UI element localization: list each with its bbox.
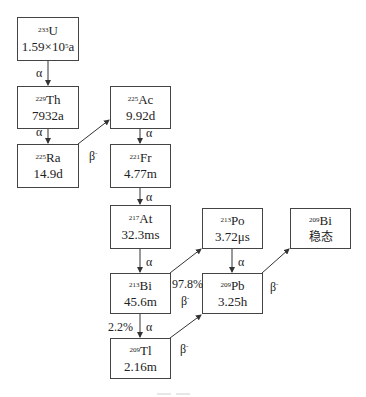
label-alpha-fr-at: α [146, 191, 152, 203]
nuclide-tl209: 209Tl 2.16m [110, 338, 171, 379]
nuclide-u233: 233U 1.59×105a [17, 17, 79, 61]
nuclide-th229: 229Th 7932a [17, 86, 79, 129]
label-alpha-po-pb: α [238, 256, 244, 268]
label-alpha-bi-tl: α [146, 321, 152, 333]
label-beta-tl-pb: β- [180, 340, 188, 355]
nuclide-bi209: 209Bi 稳态 [290, 208, 351, 249]
label-alpha-at-bi: α [146, 256, 152, 268]
label-alpha-ac-fr: α [146, 127, 152, 139]
nuclide-fr221: 221Fr 4.77m [110, 144, 171, 188]
caption-fragment [157, 393, 171, 395]
nuclide-ra225: 225Ra 14.9d [17, 144, 79, 188]
label-alpha-u-th: α [36, 67, 42, 79]
label-beta-bi-po: β- [181, 292, 189, 307]
nuclide-ac225: 225Ac 9.92d [110, 86, 171, 129]
nuclide-at217: 217At 32.3ms [110, 205, 171, 249]
label-beta-pb-bi: β- [270, 278, 278, 293]
label-branch-2-2: 2.2% [108, 321, 133, 333]
label-beta-ra-ac: β- [89, 147, 97, 162]
nuclide-po213: 213Po 3.72μs [202, 208, 263, 249]
nuclide-bi213: 213Bi 45.6m [110, 273, 171, 314]
label-alpha-th-ra: α [36, 126, 42, 138]
nuclide-pb209: 209Pb 3.25h [202, 273, 263, 314]
label-branch-97-8: 97.8% [172, 278, 203, 290]
caption-fragment [176, 393, 190, 395]
